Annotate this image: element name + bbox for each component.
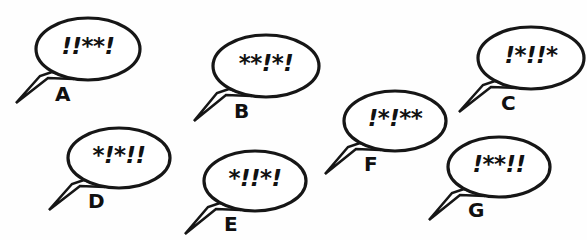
- bubble-outline-g: [0, 0, 587, 240]
- grawlix-text-g: !**!!: [453, 151, 545, 177]
- bubble-label-g: G: [468, 198, 484, 222]
- speech-bubble-scene: !!**!A**!*!B!*!!*C*!*!!D*!!*!E!*!**F!**!…: [0, 0, 587, 240]
